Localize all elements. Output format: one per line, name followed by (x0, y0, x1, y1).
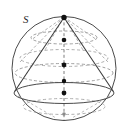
generator-dashed-2 (64, 17, 97, 40)
geometry-figure: S (0, 0, 126, 130)
axis-point-4 (62, 91, 67, 96)
cone-slant-left (15, 18, 64, 92)
axis-point-2 (62, 63, 67, 68)
axis-point-5 (62, 112, 66, 116)
generator-dashed-4 (64, 17, 108, 62)
generator-dashed-1 (31, 17, 64, 40)
figure-canvas: S (0, 0, 126, 130)
axis-point-3 (62, 79, 66, 83)
sphere-label-s: S (23, 13, 29, 25)
cone-slant-right (64, 18, 113, 92)
axis-point-1 (62, 38, 67, 43)
apex-point (61, 15, 66, 20)
